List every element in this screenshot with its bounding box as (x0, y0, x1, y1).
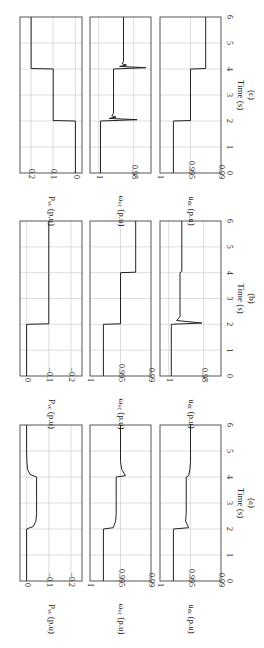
y-tick-label: 0.2 (27, 169, 36, 179)
y-tick-label: 0.995 (187, 161, 196, 179)
y-tick-label: 0.99 (217, 165, 226, 179)
y-tick-label: 0.995 (187, 569, 196, 587)
y-axis-label: Pvc (p.u) (47, 604, 57, 634)
x-tick-label: 4 (225, 67, 234, 71)
y-axis-label: ωvc (p.u) (116, 195, 126, 226)
y-tick-label: 0.99 (217, 573, 226, 587)
y-tick-label: 0.99 (147, 368, 156, 382)
y-axis-label: udc (p.u) (186, 399, 196, 429)
y-tick-label: 0.995 (117, 364, 126, 382)
x-tick-label: 5 (225, 245, 234, 249)
x-tick-label: 1 (225, 145, 234, 149)
panel-c: 0.20.10Pvc (p.u)10.98ωvc (p.u)10.9950.99… (20, 15, 257, 227)
y-axis-label: Pvc (p.u) (47, 196, 57, 226)
x-axis-label: Time (s) (236, 488, 246, 518)
subplot-3: 10.9950.99udc (p.u) (156, 17, 226, 226)
y-tick-label: 0.1 (49, 169, 58, 179)
y-tick-label: 1 (156, 583, 165, 587)
y-tick-label: −0.2 (67, 572, 76, 587)
subplot-2: 10.9950.99ωvc (p.u) (86, 221, 156, 430)
x-tick-label: 6 (225, 219, 234, 223)
panel-caption: (c) (247, 90, 257, 100)
subplot-1: 0.20.10Pvc (p.u) (20, 17, 82, 226)
x-tick-label: 6 (225, 423, 234, 427)
x-tick-label: 4 (225, 475, 234, 479)
y-tick-label: 1 (86, 583, 95, 587)
panel-caption: (b) (247, 293, 257, 304)
subplot-3: 10.98udc (p.u) (160, 221, 221, 429)
x-tick-label: 0 (225, 579, 234, 583)
panel-caption: (a) (247, 498, 257, 508)
x-tick-label: 3 (225, 297, 234, 301)
subplot-1: 0−0.1−0.2Pvc (p.u) (20, 221, 82, 429)
y-tick-label: 1 (156, 175, 165, 179)
y-tick-label: 0.98 (130, 165, 139, 179)
y-tick-label: 1 (86, 378, 95, 382)
subplot-1: 0−0.1−0.2Pvc (p.u) (20, 425, 82, 634)
y-axis-label: udc (p.u) (186, 604, 196, 634)
y-tick-label: 0.99 (147, 573, 156, 587)
y-tick-label: 0 (72, 175, 81, 179)
x-tick-label: 0 (225, 374, 234, 378)
x-tick-label: 3 (225, 93, 234, 97)
y-tick-label: −0.1 (45, 572, 54, 587)
panel-b: 0−0.1−0.2Pvc (p.u)10.9950.99ωvc (p.u)10.… (20, 219, 257, 430)
x-axis-label: Time (s) (236, 283, 246, 313)
y-axis-label: udc (p.u) (186, 196, 196, 226)
x-tick-label: 5 (225, 449, 234, 453)
x-tick-label: 2 (225, 119, 234, 123)
y-tick-label: 0 (23, 583, 32, 587)
y-tick-label: 0 (23, 378, 32, 382)
y-axis-label: ωvc (p.u) (116, 603, 126, 634)
subplot-3: 10.9950.99udc (p.u) (156, 425, 226, 634)
y-tick-label: 0.98 (200, 368, 209, 382)
x-tick-label: 3 (225, 501, 234, 505)
x-tick-label: 2 (225, 322, 234, 326)
y-tick-label: 0.995 (117, 569, 126, 587)
x-tick-label: 5 (225, 41, 234, 45)
x-tick-label: 6 (225, 15, 234, 19)
subplot-2: 10.98ωvc (p.u) (90, 17, 151, 227)
x-tick-label: 1 (225, 348, 234, 352)
figure-canvas: 0−0.1−0.2Pvc (p.u)10.9950.99ωvc (p.u)10.… (0, 0, 264, 648)
y-tick-label: 1 (165, 378, 174, 382)
panel-a: 0−0.1−0.2Pvc (p.u)10.9950.99ωvc (p.u)10.… (20, 423, 257, 635)
subplot-2: 10.9950.99ωvc (p.u) (86, 425, 156, 635)
y-axis-label: ωvc (p.u) (116, 398, 126, 429)
x-axis-label: Time (s) (236, 80, 246, 110)
x-tick-label: 1 (225, 553, 234, 557)
y-tick-label: −0.1 (45, 367, 54, 382)
x-tick-label: 2 (225, 527, 234, 531)
y-tick-label: −0.2 (67, 367, 76, 382)
y-axis-label: Pvc (p.u) (47, 399, 57, 429)
y-tick-label: 1 (95, 175, 104, 179)
x-tick-label: 0 (225, 171, 234, 175)
x-tick-label: 4 (225, 271, 234, 275)
